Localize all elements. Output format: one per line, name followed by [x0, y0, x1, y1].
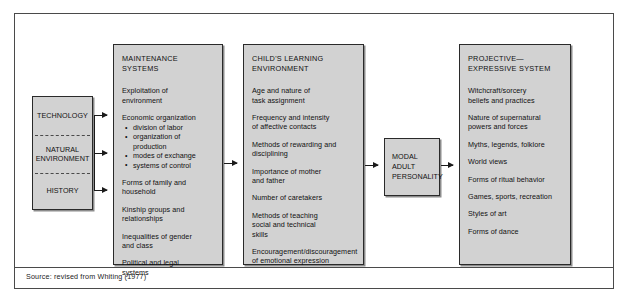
arrow-modal-to-projective — [441, 165, 453, 166]
input-cell-natural-environment-label: NATURAL ENVIRONMENT — [36, 145, 90, 163]
arrow-environment-to-maintenance — [94, 153, 107, 154]
maintenance-item-exploitation: Exploitation of environment — [122, 86, 215, 105]
projective-item-ritual-behavior: Forms of ritual behavior — [468, 175, 565, 184]
input-cell-history-label: HISTORY — [46, 186, 78, 195]
projective-item-styles-of-art: Styles of art — [468, 209, 565, 218]
projective-item-forms-of-dance: Forms of dance — [468, 227, 565, 236]
childs-learning-environment-box: CHILD'S LEARNING ENVIRONMENT Age and nat… — [243, 44, 364, 265]
list-item: systems of control — [122, 161, 215, 170]
projective-expressive-system-box: PROJECTIVE— EXPRESSIVE SYSTEM Witchcraft… — [459, 44, 571, 265]
projective-item-games-sports: Games, sports, recreation — [468, 192, 565, 201]
projective-item-world-views: World views — [468, 157, 565, 166]
environmental-inputs-box: TECHNOLOGY NATURAL ENVIRONMENT HISTORY — [32, 96, 93, 210]
child-item-mother-father: Importance of mother and father — [252, 167, 358, 186]
child-item-caretakers: Number of caretakers — [252, 193, 358, 202]
projective-item-myths: Myths, legends, folklore — [468, 140, 565, 149]
input-cell-technology-label: TECHNOLOGY — [37, 111, 88, 120]
source-divider — [14, 267, 614, 268]
child-item-affective-contacts: Frequency and intensity of affective con… — [252, 113, 358, 132]
maintenance-systems-title: MAINTENANCE SYSTEMS — [122, 54, 215, 73]
maintenance-item-economic-organization: Economic organization — [122, 113, 215, 122]
input-cell-technology: TECHNOLOGY — [33, 97, 92, 135]
arrow-history-to-maintenance — [94, 190, 107, 191]
input-cell-natural-environment: NATURAL ENVIRONMENT — [33, 135, 92, 173]
maintenance-economic-bullets: division of labor organization of produc… — [122, 123, 215, 170]
arrow-child-to-modal — [365, 165, 378, 166]
projective-item-witchcraft: Witchcraft/sorcery beliefs and practices — [468, 86, 565, 105]
figure-root: TECHNOLOGY NATURAL ENVIRONMENT HISTORY M… — [0, 0, 632, 307]
arrow-technology-to-maintenance — [94, 115, 107, 116]
modal-adult-personality-label: MODAL ADULT PERSONALITY — [392, 152, 443, 182]
input-cell-history: HISTORY — [33, 173, 92, 209]
list-item: modes of exchange — [122, 151, 215, 160]
list-item: division of labor — [122, 123, 215, 132]
maintenance-item-kinship-groups: Kinship groups and relationships — [122, 205, 215, 224]
child-item-emotional-expression: Encouragement/discouragement of emotiona… — [252, 247, 358, 266]
child-item-task-assignment: Age and nature of task assignment — [252, 86, 358, 105]
maintenance-item-family-forms: Forms of family and household — [122, 178, 215, 197]
list-item: organization of production — [122, 132, 215, 151]
child-item-rewarding-disciplining: Methods of rewarding and disciplining — [252, 140, 358, 159]
source-note: Source: revised from Whiting (1977) — [26, 272, 146, 281]
arrow-maintenance-to-child — [224, 163, 237, 164]
projective-expressive-system-title: PROJECTIVE— EXPRESSIVE SYSTEM — [468, 54, 565, 73]
child-item-teaching-methods: Methods of teaching social and technical… — [252, 211, 358, 239]
projective-item-supernatural: Nature of supernatural powers and forces — [468, 113, 565, 132]
childs-learning-environment-title: CHILD'S LEARNING ENVIRONMENT — [252, 54, 358, 73]
modal-adult-personality-box: MODAL ADULT PERSONALITY — [384, 138, 440, 196]
maintenance-systems-box: MAINTENANCE SYSTEMS Exploitation of envi… — [113, 44, 223, 265]
maintenance-item-inequalities: Inequalities of gender and class — [122, 232, 215, 251]
